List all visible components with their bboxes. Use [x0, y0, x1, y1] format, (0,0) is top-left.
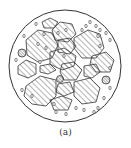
pore [35, 22, 37, 25]
pore [15, 58, 17, 61]
pore [45, 46, 47, 49]
pore [97, 106, 99, 109]
pore [31, 94, 33, 97]
pore [37, 42, 39, 45]
pore [93, 110, 95, 113]
pore [23, 34, 25, 37]
pore [57, 31, 59, 34]
inclusion-particle [18, 49, 26, 57]
cross-section-diagram [0, 0, 131, 148]
pore [99, 44, 101, 47]
pore [83, 108, 85, 111]
pore [65, 112, 67, 115]
pore [103, 96, 105, 99]
pore [43, 32, 45, 35]
pore [89, 20, 91, 23]
pore [95, 24, 97, 27]
pore [109, 86, 111, 89]
pore [65, 28, 67, 31]
figure-caption: (a) [0, 127, 131, 137]
pore [75, 106, 77, 109]
pore [109, 66, 111, 69]
pore [21, 88, 23, 91]
pore [99, 28, 101, 31]
pore [81, 28, 83, 31]
pore [109, 38, 111, 41]
pore [39, 60, 41, 63]
inclusion-particle [102, 76, 110, 84]
pore [63, 54, 65, 57]
pore [55, 110, 57, 113]
pore [97, 34, 99, 37]
pore [85, 24, 87, 27]
pore [105, 31, 107, 34]
inclusion-particle [57, 76, 64, 83]
pore [53, 102, 55, 105]
